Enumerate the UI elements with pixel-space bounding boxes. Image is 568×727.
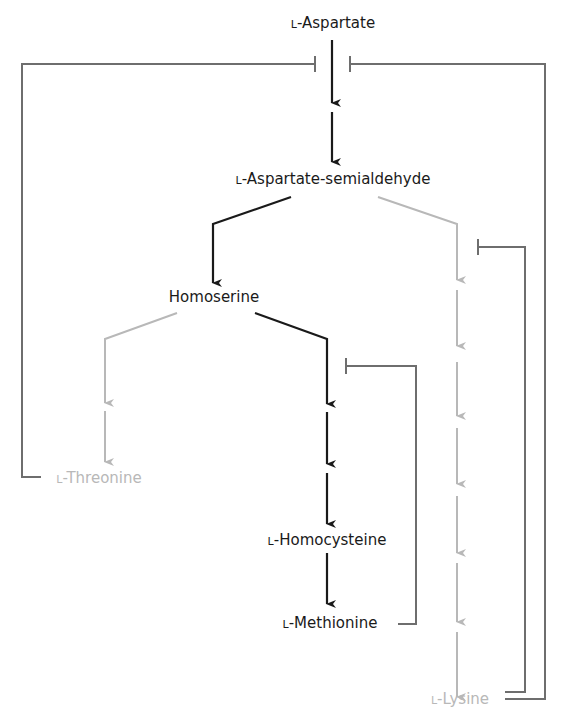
node-l-lysine: L-Lysine — [431, 690, 489, 710]
edge-homoserine-to-threonine — [105, 313, 177, 462]
node-label: -Methionine — [289, 614, 378, 632]
node-l-aspartate-semialdehyde: L-Aspartate-semialdehyde — [236, 170, 431, 190]
feedback-lysine-inhibition-aspartate — [350, 56, 545, 699]
node-label: -Lysine — [437, 690, 489, 708]
node-label: -Aspartate-semialdehyde — [242, 170, 431, 188]
node-label: -Aspartate — [297, 14, 375, 32]
node-l-homocysteine: L-Homocysteine — [268, 531, 387, 551]
feedback-methionine-inhibition — [346, 358, 416, 624]
node-label: -Homocysteine — [274, 531, 387, 549]
node-label: Homoserine — [169, 288, 259, 306]
node-l-methionine: L-Methionine — [283, 614, 378, 634]
node-label: -Threonine — [62, 469, 141, 487]
feedback-lysine-inhibition-branch — [478, 239, 525, 692]
node-homoserine: Homoserine — [169, 288, 259, 308]
node-l-threonine: L-Threonine — [56, 469, 142, 489]
feedback-threonine-inhibition — [22, 56, 315, 477]
edge-semialdehyde-to-homoserine — [213, 197, 291, 283]
edge-homoserine-to-homocysteine — [255, 313, 327, 524]
node-l-aspartate: L-Aspartate — [291, 14, 375, 34]
edge-semialdehyde-to-lysine — [378, 197, 457, 697]
